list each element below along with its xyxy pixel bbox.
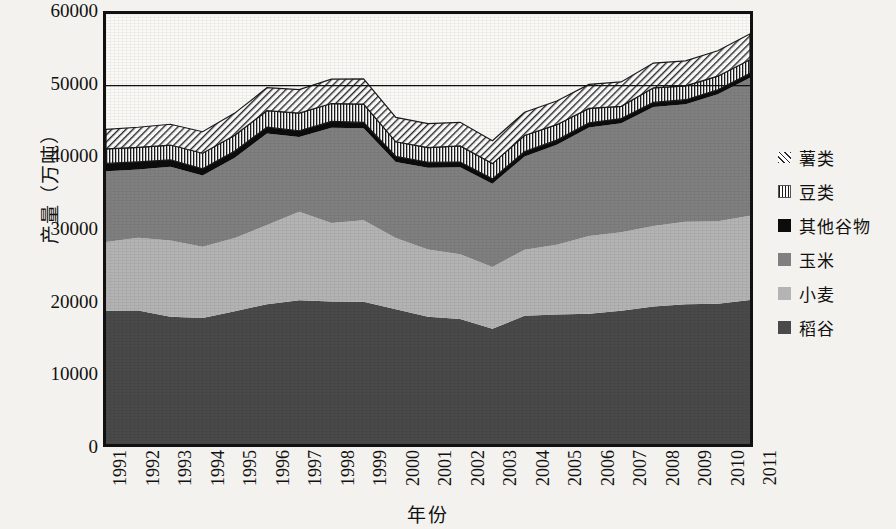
y-axis-tick-label: 20000 [6,291,98,313]
plot-area [103,11,753,447]
y-axis-tick-label: 10000 [6,363,98,385]
x-axis-tick-label: 2004 [533,450,554,486]
solid-black-swatch [778,219,791,232]
x-axis-title: 年份 [103,500,753,527]
x-axis-tick-label: 1998 [338,450,359,486]
x-axis-tick-label: 2005 [565,450,586,486]
x-axis-tick-label: 2011 [760,450,781,485]
light-gray-swatch [778,287,791,300]
x-axis-tick-label: 1994 [208,450,229,486]
x-axis-tick-label: 2003 [500,450,521,486]
chart-legend: 薯类豆类其他谷物玉米小麦稻谷 [778,140,896,344]
legend-item-label: 小麦 [799,281,835,306]
x-axis-tick-label: 2002 [468,450,489,486]
legend-item-label: 稻谷 [799,315,835,340]
x-axis-tick-label: 2009 [695,450,716,486]
stacked-area-chart-figure: 6000050000400003000020000100000 产量（万吨） 1… [0,0,896,529]
area-series-svg [106,14,750,444]
y-axis-tick-label: 60000 [6,0,98,22]
legend-item: 其他谷物 [778,208,896,242]
y-axis-tick-label: 50000 [6,73,98,95]
medium-gray-swatch [778,253,791,266]
x-axis-tick-label: 1992 [143,450,164,486]
x-axis-tick-label: 1999 [370,450,391,486]
legend-item: 稻谷 [778,310,896,344]
dark-gray-swatch [778,321,791,334]
x-axis-tick-label: 1993 [175,450,196,486]
x-axis-tick-label: 2010 [728,450,749,486]
x-axis-tick-label: 2006 [598,450,619,486]
x-axis-tick-label: 1991 [110,450,131,486]
vertical-hatch-swatch [778,185,791,198]
legend-item: 玉米 [778,242,896,276]
area-series-稻谷 [106,300,750,444]
x-axis-tick-label: 1995 [240,450,261,486]
x-axis-tick-label: 1997 [305,450,326,486]
y-axis-title: 产量（万吨） [35,94,62,274]
y-axis-tick-label: 0 [6,436,98,458]
x-axis-tick-label: 2008 [663,450,684,486]
legend-item-label: 其他谷物 [799,213,871,238]
legend-item-label: 玉米 [799,247,835,272]
legend-item-label: 薯类 [799,145,835,170]
x-axis-tick-label: 2001 [435,450,456,486]
legend-item: 薯类 [778,140,896,174]
x-axis-tick-label: 1996 [273,450,294,486]
x-axis-tick-label: 2007 [630,450,651,486]
legend-item: 小麦 [778,276,896,310]
legend-item-label: 豆类 [799,179,835,204]
x-axis-tick-label: 2000 [403,450,424,486]
legend-item: 豆类 [778,174,896,208]
diagonal-hatch-swatch [778,152,791,163]
